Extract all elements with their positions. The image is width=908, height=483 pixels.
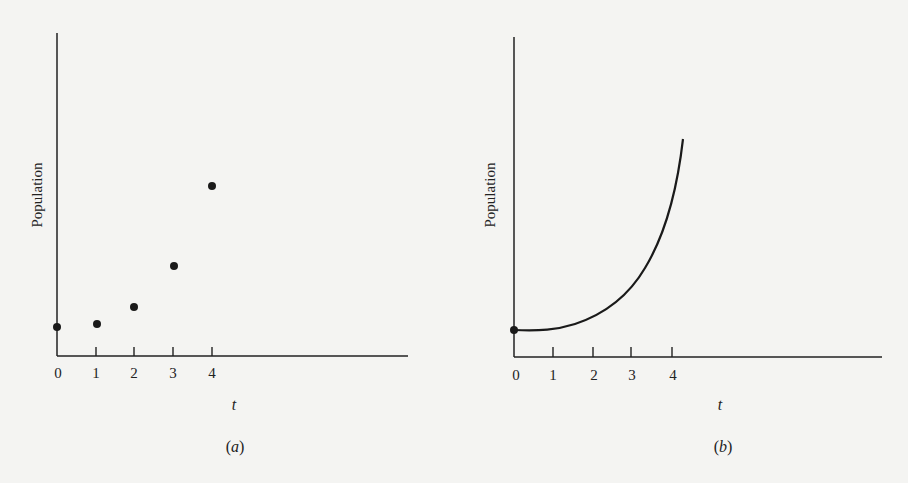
- panel-caption: (b): [714, 438, 733, 456]
- data-points: [53, 182, 216, 331]
- x-tick-label: 4: [669, 367, 677, 383]
- panel-caption: (a): [226, 438, 245, 456]
- x-ticks: [96, 347, 212, 356]
- x-tick-label: 4: [208, 365, 216, 381]
- data-point: [130, 303, 138, 311]
- data-point: [53, 323, 61, 331]
- x-tick-label: 1: [92, 365, 100, 381]
- data-point: [208, 182, 216, 190]
- x-tick-label: 3: [628, 367, 636, 383]
- x-tick-label: 0: [512, 367, 520, 383]
- y-axis-title: Population: [29, 162, 45, 228]
- initial-value-point: [510, 326, 518, 334]
- data-point: [170, 262, 178, 270]
- y-axis-title: Population: [482, 162, 498, 228]
- figure-canvas: 0 1 2 3 4 Population t (a) 0 1 2 3 4 Pop…: [0, 0, 908, 483]
- x-ticks: [553, 347, 672, 357]
- x-axis-title: t: [232, 396, 237, 413]
- x-tick-label: 1: [549, 367, 557, 383]
- growth-curve: [514, 139, 683, 330]
- panel-b: 0 1 2 3 4 Population t (b): [482, 37, 882, 456]
- panel-a: 0 1 2 3 4 Population t (a): [29, 33, 408, 456]
- x-tick-label: 3: [169, 365, 177, 381]
- x-tick-label: 2: [590, 367, 598, 383]
- x-tick-label: 0: [54, 365, 62, 381]
- x-axis-title: t: [718, 396, 723, 413]
- x-tick-label: 2: [130, 365, 138, 381]
- data-point: [93, 320, 101, 328]
